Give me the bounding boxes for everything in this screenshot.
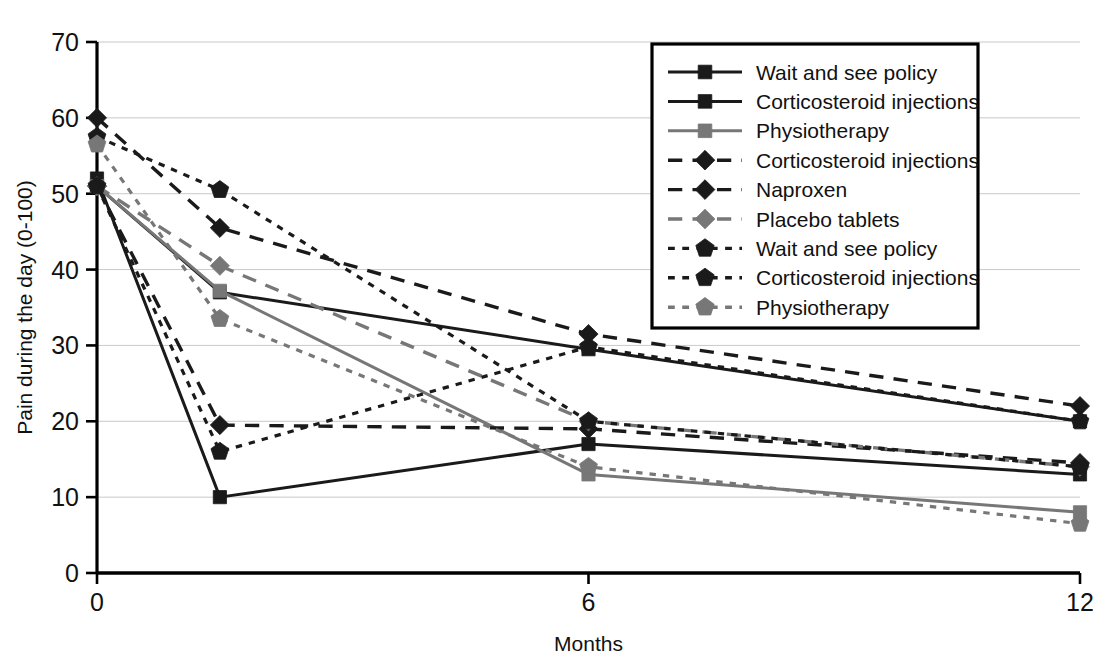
y-tick-label: 50 — [51, 180, 79, 208]
x-tick-label: 12 — [1066, 588, 1094, 616]
data-point-marker — [211, 181, 229, 198]
x-tick-label: 6 — [582, 588, 596, 616]
legend-label: Corticosteroid injections — [756, 266, 979, 289]
data-point-marker — [210, 256, 229, 275]
legend-label: Physiotherapy — [756, 296, 890, 319]
legend-label: Corticosteroid injections — [756, 149, 979, 172]
pain-line-chart: 0102030405060700612MonthsPain during the… — [0, 0, 1104, 667]
data-point-marker — [213, 491, 226, 504]
y-tick-label: 30 — [51, 331, 79, 359]
y-axis-title: Pain during the day (0-100) — [13, 180, 36, 435]
y-tick-label: 40 — [51, 256, 79, 284]
y-tick-label: 20 — [51, 407, 79, 435]
legend-label: Placebo tablets — [756, 208, 900, 231]
data-point-marker — [211, 442, 229, 459]
y-tick-label: 10 — [51, 483, 79, 511]
legend-entry[interactable]: Placebo tablets — [668, 208, 900, 231]
data-point-marker — [580, 338, 598, 355]
data-point-marker — [582, 437, 595, 450]
legend-label: Wait and see policy — [756, 61, 938, 84]
data-point-marker — [580, 412, 598, 429]
legend-label: Wait and see policy — [756, 237, 938, 260]
legend-marker-square-icon — [698, 65, 712, 79]
y-tick-label: 0 — [65, 559, 79, 587]
legend-marker-square-icon — [698, 124, 712, 138]
y-tick-label: 60 — [51, 104, 79, 132]
x-tick-label: 0 — [90, 588, 104, 616]
x-axis-title: Months — [554, 632, 623, 655]
legend-marker-square-icon — [698, 95, 712, 109]
data-point-marker — [580, 457, 598, 474]
legend: Wait and see policyCorticosteroid inject… — [652, 44, 979, 328]
data-point-marker — [210, 416, 229, 435]
legend-label: Corticosteroid injections — [756, 90, 979, 113]
y-tick-label: 70 — [51, 28, 79, 56]
legend-label: Physiotherapy — [756, 119, 890, 142]
data-point-marker — [213, 284, 226, 297]
legend-label: Naproxen — [756, 178, 847, 201]
chart-figure: 0102030405060700612MonthsPain during the… — [0, 0, 1104, 667]
